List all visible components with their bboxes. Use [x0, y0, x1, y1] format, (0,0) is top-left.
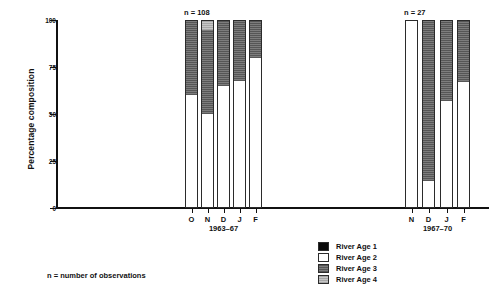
chart-container: Percentage composition 0255075100 ONDJF1…	[0, 0, 493, 297]
y-tick-mark	[50, 208, 56, 209]
bar-segment	[441, 20, 452, 101]
chart-footnote: n = number of observations	[47, 271, 146, 280]
stacked-bar	[422, 20, 435, 208]
bar-segment	[250, 20, 261, 58]
bar-segment	[218, 86, 229, 207]
stacked-bar	[233, 20, 246, 208]
x-axis-group-label: 1967–70	[405, 224, 470, 233]
bar-segment	[218, 20, 229, 86]
legend-swatch-icon	[318, 253, 329, 262]
bar-segment	[202, 20, 213, 30]
stacked-bar	[405, 20, 418, 208]
x-tick-label-N: N	[200, 215, 216, 224]
bar-segment	[202, 29, 213, 114]
stacked-bar	[217, 20, 230, 208]
bar-segment	[250, 58, 261, 207]
stacked-bar	[457, 20, 470, 208]
chart-legend: River Age 1River Age 2River Age 3River A…	[318, 241, 377, 285]
x-tick-mark	[192, 209, 193, 213]
legend-label: River Age 1	[336, 242, 377, 251]
x-tick-mark	[240, 209, 241, 213]
y-tick-mark	[50, 114, 56, 115]
x-tick-label-D: D	[421, 215, 437, 224]
x-tick-label-F: F	[456, 215, 472, 224]
x-tick-mark	[429, 209, 430, 213]
legend-swatch-icon	[318, 264, 329, 273]
y-tick-mark	[50, 67, 56, 68]
stacked-bar	[249, 20, 262, 208]
plot-area	[58, 20, 489, 208]
x-tick-mark	[412, 209, 413, 213]
bar-segment	[458, 82, 469, 207]
legend-label: River Age 4	[336, 275, 377, 284]
x-tick-label-J: J	[232, 215, 248, 224]
x-tick-label-F: F	[248, 215, 264, 224]
x-axis-labels: ONDJF1963–67NDJF1967–70	[58, 209, 489, 239]
bar-segment	[186, 95, 197, 207]
y-axis-title: Percentage composition	[26, 24, 36, 214]
x-tick-mark	[256, 209, 257, 213]
legend-item: River Age 1	[318, 241, 377, 252]
bar-segment	[406, 21, 417, 207]
group-observation-count: n = 108	[184, 8, 210, 17]
x-tick-mark	[224, 209, 225, 213]
stacked-bar	[201, 20, 214, 208]
x-axis-group-label: 1963–67	[185, 224, 262, 233]
x-tick-label-D: D	[216, 215, 232, 224]
y-tick-mark	[50, 161, 56, 162]
bar-segment	[441, 101, 452, 207]
legend-item: River Age 3	[318, 263, 377, 274]
x-tick-label-N: N	[404, 215, 420, 224]
x-tick-label-J: J	[439, 215, 455, 224]
bar-segment	[423, 181, 434, 207]
legend-item: River Age 4	[318, 274, 377, 285]
legend-swatch-icon	[318, 242, 329, 251]
bar-segment	[458, 20, 469, 82]
x-tick-mark	[447, 209, 448, 213]
legend-item: River Age 2	[318, 252, 377, 263]
x-tick-mark	[464, 209, 465, 213]
bar-segment	[234, 81, 245, 207]
stacked-bar	[185, 20, 198, 208]
group-observation-count: n = 27	[404, 8, 425, 17]
bar-segment	[186, 20, 197, 95]
bar-segment	[423, 20, 434, 181]
legend-label: River Age 2	[336, 253, 377, 262]
stacked-bar	[440, 20, 453, 208]
legend-swatch-icon	[318, 275, 329, 284]
bar-segment	[202, 114, 213, 207]
y-tick-mark	[50, 20, 56, 21]
x-tick-mark	[208, 209, 209, 213]
legend-label: River Age 3	[336, 264, 377, 273]
x-tick-label-O: O	[184, 215, 200, 224]
bar-segment	[234, 20, 245, 81]
